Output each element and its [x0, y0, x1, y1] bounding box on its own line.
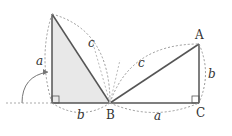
right-side-c	[110, 44, 199, 103]
label-left-c: c	[88, 36, 95, 50]
label-vertex-c: C	[196, 106, 205, 120]
label-right-a: a	[154, 109, 161, 123]
pythagoras-diagram: a b c B A C a b c	[0, 0, 232, 136]
label-right-b: b	[208, 67, 216, 81]
label-vertex-a: A	[194, 28, 204, 42]
arc-left-a	[45, 14, 52, 103]
label-vertex-b: B	[106, 108, 115, 122]
label-left-b: b	[77, 108, 85, 122]
label-right-c: c	[138, 56, 145, 70]
right-right-angle-mark	[192, 96, 199, 103]
arc-right-b	[199, 44, 206, 103]
rotation-arrow	[22, 72, 48, 103]
label-left-a: a	[36, 54, 43, 68]
